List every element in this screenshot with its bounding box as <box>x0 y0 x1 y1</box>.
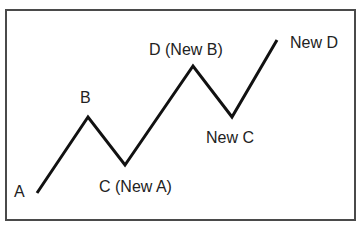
label-new-c: New C <box>206 130 254 146</box>
label-d-new-b: D (New B) <box>149 42 223 58</box>
label-b: B <box>80 90 91 106</box>
label-c-new-a: C (New A) <box>99 179 172 195</box>
label-new-d: New D <box>290 35 338 51</box>
zigzag-polyline <box>37 40 277 193</box>
label-a: A <box>14 184 25 200</box>
